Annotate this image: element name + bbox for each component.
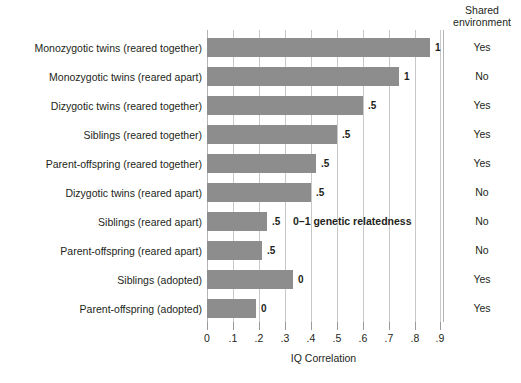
bar: [207, 38, 430, 57]
shared-environment-value: Yes: [447, 96, 517, 115]
x-tick-mark: [337, 322, 338, 330]
bar: [207, 183, 311, 202]
gridline-8: [415, 30, 416, 322]
x-tick-mark: [207, 322, 208, 330]
x-tick-mark: [233, 322, 234, 330]
x-tick-label: .9: [425, 332, 455, 344]
shared-environment-value: Yes: [447, 38, 517, 57]
category-label: Dizygotic twins (reared together): [2, 101, 202, 112]
category-label: Siblings (reared apart): [2, 217, 202, 228]
bar: [207, 270, 293, 289]
x-tick-mark: [440, 322, 441, 330]
category-label: Parent-offspring (reared apart): [2, 246, 202, 257]
category-label: Dizygotic twins (reared apart): [2, 188, 202, 199]
shared-environment-value: No: [447, 67, 517, 86]
shared-environment-header: Shared environment: [447, 4, 517, 28]
bar: [207, 67, 399, 86]
category-label: Siblings (reared together): [2, 130, 202, 141]
shared-environment-header-line2: environment: [447, 16, 517, 28]
shared-environment-header-line1: Shared: [447, 4, 517, 16]
x-tick-mark: [285, 322, 286, 330]
bar-value-label: 1: [404, 67, 410, 86]
bar-value-label: 0: [298, 270, 304, 289]
shared-environment-value: Yes: [447, 270, 517, 289]
shared-environment-value: Yes: [447, 125, 517, 144]
gridline-9: [440, 30, 441, 322]
x-tick-mark: [389, 322, 390, 330]
category-label: Parent-offspring (adopted): [2, 304, 202, 315]
bar-value-label: .5: [316, 183, 324, 202]
shared-environment-value: No: [447, 241, 517, 260]
bar-value-label: 0: [261, 299, 267, 318]
x-tick-mark: [311, 322, 312, 330]
bar-value-label: 1: [435, 38, 441, 57]
bar-value-label: .5: [272, 212, 280, 231]
x-tick-mark: [363, 322, 364, 330]
bar-value-label: .5: [368, 96, 376, 115]
bar: [207, 299, 256, 318]
shared-environment-value: No: [447, 212, 517, 231]
x-tick-mark: [259, 322, 260, 330]
category-label: Siblings (adopted): [2, 275, 202, 286]
bar-value-label: .5: [321, 154, 329, 173]
bar: [207, 154, 316, 173]
bar-value-label: .5: [342, 125, 350, 144]
x-tick-mark: [415, 322, 416, 330]
iq-correlation-chart: Monozygotic twins (reared together) Mono…: [0, 0, 521, 383]
bar: [207, 241, 262, 260]
category-axis-labels: Monozygotic twins (reared together) Mono…: [0, 0, 202, 383]
shared-environment-value: Yes: [447, 154, 517, 173]
x-axis-title: IQ Correlation: [207, 352, 440, 364]
category-label: Monozygotic twins (reared together): [2, 43, 202, 54]
genetic-relatedness-annotation: 0–1 genetic relatedness: [293, 212, 411, 231]
plot-area: 1 1 .5 .5 .5 .5 .5 .5 0 0 0–1 genetic re…: [207, 30, 440, 322]
shared-environment-value: Yes: [447, 299, 517, 318]
bar: [207, 212, 267, 231]
bar: [207, 125, 337, 144]
category-label: Parent-offspring (reared together): [2, 159, 202, 170]
category-label: Monozygotic twins (reared apart): [2, 72, 202, 83]
bar: [207, 96, 363, 115]
bar-value-label: .5: [267, 241, 275, 260]
shared-environment-value: No: [447, 183, 517, 202]
column-divider: [443, 30, 444, 322]
